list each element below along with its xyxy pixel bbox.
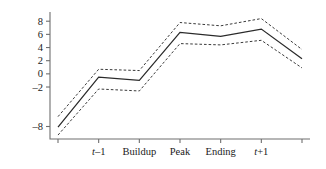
x-tick-marks — [58, 139, 302, 143]
y-tick-marks — [46, 21, 50, 126]
y-tick-label: 4 — [38, 42, 44, 53]
chart-figure: Percent of GDP 86420–2–8 t–1BuildupPeakE… — [0, 0, 326, 169]
series-mean-line — [58, 29, 302, 127]
x-tick-label: t+1 — [254, 146, 268, 157]
x-tick-label: Peak — [170, 146, 191, 157]
y-tick-labels: 86420–2–8 — [32, 16, 44, 132]
y-tick-label: 0 — [38, 68, 43, 79]
axis-spines — [50, 12, 310, 139]
y-tick-label: 6 — [38, 29, 43, 40]
y-tick-label: –8 — [32, 121, 44, 132]
y-tick-label: 8 — [38, 16, 43, 27]
series-lower-confidence-line — [58, 40, 302, 135]
x-tick-labels: t–1BuildupPeakEndingt+1 — [92, 146, 268, 157]
y-tick-label: 2 — [38, 55, 43, 66]
x-tick-label: Ending — [205, 146, 236, 157]
x-tick-label: Buildup — [122, 146, 156, 157]
y-tick-label: –2 — [32, 82, 44, 93]
x-tick-label: t–1 — [92, 146, 105, 157]
plot-area: 86420–2–8 t–1BuildupPeakEndingt+1 — [0, 0, 326, 169]
